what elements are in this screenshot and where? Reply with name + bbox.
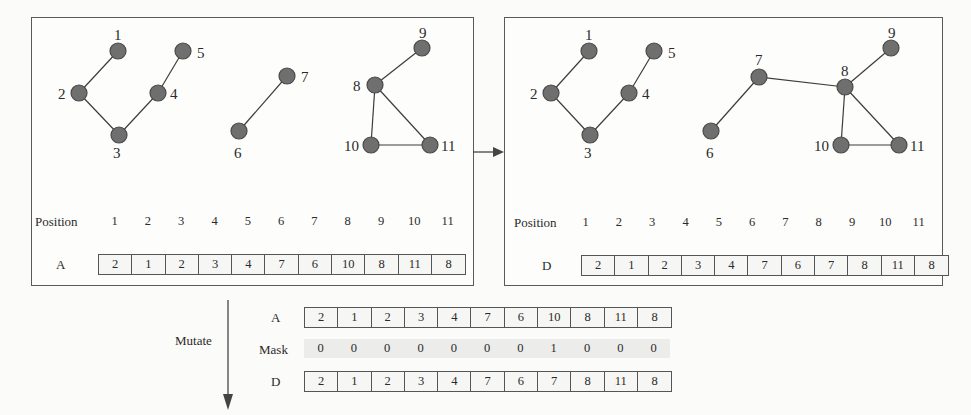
svg-text:1: 1 (114, 27, 122, 43)
graph-node (231, 123, 247, 139)
svg-text:3: 3 (113, 145, 121, 161)
mask-cell: 0 (304, 339, 337, 358)
array-cell: 8 (571, 372, 604, 391)
array-cell: 4 (715, 256, 748, 275)
panel-after: 1 2 3 4 5 6 7 8 9 10 11 Position 1 2 3 4… (504, 17, 943, 286)
array-cell: 11 (399, 255, 432, 274)
array-cell: 8 (432, 255, 465, 274)
array-cell: 7 (748, 256, 781, 275)
array-cell: 8 (848, 256, 881, 275)
array-cell: 7 (538, 372, 571, 391)
graph-node (891, 137, 907, 153)
graph-after: 1 2 3 4 5 6 7 8 9 10 11 (505, 18, 944, 198)
graph-before: 1 2 3 4 5 6 7 8 9 10 11 (32, 18, 475, 198)
position-label: Position (514, 215, 557, 231)
array-cell: 2 (372, 372, 405, 391)
svg-text:7: 7 (755, 52, 763, 68)
mutation-row-label-a: A (271, 310, 280, 326)
array-cell: 1 (615, 256, 648, 275)
array-cell: 7 (471, 308, 504, 327)
mask-cell: 0 (504, 339, 537, 358)
array-cell: 1 (338, 372, 371, 391)
array-cell: 3 (682, 256, 715, 275)
graph-node (111, 127, 127, 143)
array-cell: 3 (405, 372, 438, 391)
graph-node (543, 85, 559, 101)
graph-node (883, 40, 899, 56)
graph-node (703, 123, 719, 139)
graph-node (110, 43, 126, 59)
encoding-array-a: 2 1 2 3 4 7 6 10 8 11 8 (98, 254, 466, 275)
position-row: 1 2 3 4 5 6 7 8 9 10 11 (98, 214, 464, 229)
array-cell: 7 (815, 256, 848, 275)
array-cell: 11 (605, 372, 638, 391)
array-cell: 8 (365, 255, 398, 274)
svg-text:9: 9 (888, 25, 896, 41)
graph-node (175, 43, 191, 59)
array-cell: 8 (638, 308, 671, 327)
svg-text:8: 8 (353, 78, 361, 94)
array-cell: 3 (199, 255, 232, 274)
array-label: A (56, 257, 65, 273)
svg-text:10: 10 (344, 138, 359, 154)
down-arrow-icon (221, 300, 235, 412)
mutation-array-d: 2 1 2 3 4 7 6 7 8 11 8 (304, 371, 672, 392)
graph-node (71, 85, 87, 101)
svg-text:3: 3 (584, 145, 592, 161)
array-cell: 4 (232, 255, 265, 274)
array-cell: 6 (782, 256, 815, 275)
array-cell: 11 (605, 308, 638, 327)
mask-cell: 0 (404, 339, 437, 358)
mask-cell: 0 (437, 339, 470, 358)
graph-node (363, 137, 379, 153)
mutation-row-label-d: D (271, 374, 280, 390)
graph-node (422, 137, 438, 153)
graph-node (279, 68, 295, 84)
array-cell: 10 (332, 255, 365, 274)
svg-text:8: 8 (841, 63, 849, 79)
array-cell: 3 (405, 308, 438, 327)
mutation-array-a: 2 1 2 3 4 7 6 10 8 11 8 (304, 307, 672, 328)
mask-array: 0 0 0 0 0 0 0 1 0 0 0 (304, 339, 670, 358)
encoding-array-d: 2 1 2 3 4 7 6 7 8 11 8 (581, 255, 949, 276)
svg-text:10: 10 (814, 138, 829, 154)
svg-text:4: 4 (170, 86, 178, 102)
array-cell: 8 (571, 308, 604, 327)
svg-text:4: 4 (642, 86, 650, 102)
array-cell: 7 (265, 255, 298, 274)
svg-text:5: 5 (197, 45, 205, 61)
mutate-label: Mutate (175, 333, 212, 349)
array-cell: 2 (649, 256, 682, 275)
graph-node (833, 137, 849, 153)
array-cell: 8 (638, 372, 671, 391)
array-cell: 4 (438, 372, 471, 391)
svg-text:1: 1 (585, 27, 593, 43)
svg-text:9: 9 (419, 25, 427, 41)
mask-cell: 0 (371, 339, 404, 358)
panel-before: 1 2 3 4 5 6 7 8 9 10 11 Position 1 2 3 4… (31, 17, 474, 286)
array-cell: 6 (505, 308, 538, 327)
array-cell: 1 (132, 255, 165, 274)
mutation-row-label-mask: Mask (259, 342, 288, 358)
array-label: D (542, 258, 551, 274)
right-arrow-icon (473, 145, 505, 159)
mask-cell: 0 (470, 339, 503, 358)
graph-node (621, 85, 637, 101)
array-cell: 2 (99, 255, 132, 274)
array-cell: 2 (305, 308, 338, 327)
array-cell: 2 (582, 256, 615, 275)
graph-node (837, 79, 853, 95)
array-cell: 2 (305, 372, 338, 391)
graph-node (581, 43, 597, 59)
graph-node (150, 85, 166, 101)
mask-cell: 1 (537, 339, 570, 358)
svg-text:2: 2 (530, 86, 538, 102)
graph-node (582, 127, 598, 143)
graph-node (367, 77, 383, 93)
graph-node (646, 43, 662, 59)
svg-text:5: 5 (668, 45, 676, 61)
graph-node (414, 40, 430, 56)
mask-cell: 0 (637, 339, 670, 358)
mask-cell: 0 (570, 339, 603, 358)
position-label: Position (35, 214, 78, 230)
